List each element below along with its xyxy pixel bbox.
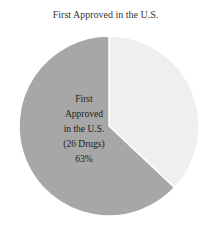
slice-label-line: First [44, 92, 124, 107]
slice-label-line: in the U.S. [44, 122, 124, 137]
slice-label-line: Approved [44, 107, 124, 122]
slice-label-first-approved-us: First Approved in the U.S. (26 Drugs) 63… [44, 92, 124, 167]
slice-label-line: (26 Drugs) [44, 137, 124, 152]
slice-label-line: 63% [44, 152, 124, 167]
